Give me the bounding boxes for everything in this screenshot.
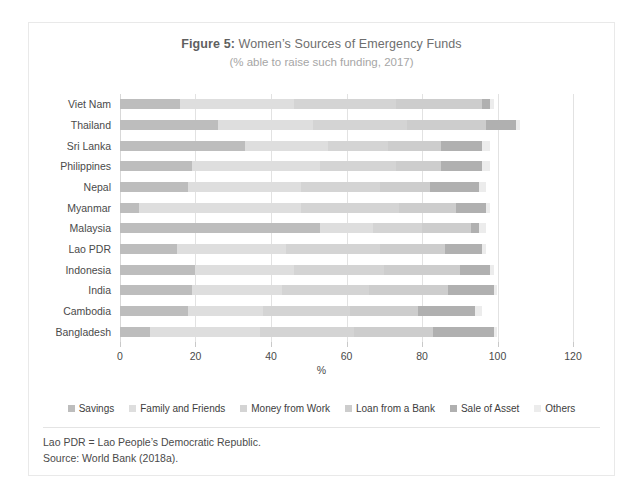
category-label-india: India: [88, 284, 111, 296]
bar-row: Sri Lanka: [120, 135, 573, 156]
legend-item-loan-from-a-bank[interactable]: Loan from a Bank: [345, 403, 435, 414]
bar-segment-sale-of-asset: [486, 120, 516, 130]
chart-title-prefix: Figure 5:: [181, 37, 235, 51]
bar-row: Nepal: [120, 177, 573, 198]
x-tick-label-80: 80: [416, 350, 428, 362]
bar-segment-others: [482, 161, 490, 171]
bar-row: India: [120, 280, 573, 301]
legend-swatch-icon: [68, 405, 75, 412]
bar-segment-loan-from-a-bank: [384, 265, 459, 275]
x-tick-60: [347, 342, 348, 347]
x-tick-label-60: 60: [341, 350, 353, 362]
legend-swatch-icon: [534, 405, 541, 412]
bar-segment-sale-of-asset: [460, 265, 490, 275]
bar-segment-sale-of-asset: [471, 223, 479, 233]
bar-segment-loan-from-a-bank: [369, 285, 448, 295]
bar-segment-others: [494, 285, 498, 295]
bar-row: Viet Nam: [120, 94, 573, 115]
bar-segment-savings: [120, 244, 177, 254]
bar-segment-loan-from-a-bank: [380, 182, 429, 192]
bar-segment-family-and-friends: [195, 265, 293, 275]
legend-swatch-icon: [345, 405, 352, 412]
stacked-bar: [120, 161, 490, 171]
bar-segment-money-from-work: [328, 141, 388, 151]
chart-title-rest: Women’s Sources of Emergency Funds: [235, 37, 462, 51]
x-tick-label-20: 20: [190, 350, 202, 362]
bar-segment-others: [475, 306, 483, 316]
bar-row: Bangladesh: [120, 321, 573, 342]
category-label-bangladesh: Bangladesh: [56, 326, 111, 338]
stacked-bar: [120, 203, 490, 213]
stacked-bar: [120, 306, 482, 316]
bar-row: Malaysia: [120, 218, 573, 239]
bar-segment-sale-of-asset: [433, 327, 493, 337]
stacked-bar: [120, 265, 494, 275]
legend-divider: [43, 427, 600, 428]
bar-segment-others: [516, 120, 520, 130]
legend-swatch-icon: [240, 405, 247, 412]
bar-segment-family-and-friends: [218, 120, 312, 130]
bar-segment-savings: [120, 327, 150, 337]
x-tick-40: [271, 342, 272, 347]
bar-segment-savings: [120, 285, 192, 295]
bar-segment-loan-from-a-bank: [396, 99, 483, 109]
figure-frame: Figure 5: Women’s Sources of Emergency F…: [28, 22, 615, 476]
bar-row: Myanmar: [120, 197, 573, 218]
x-tick-label-100: 100: [489, 350, 507, 362]
x-tick-label-0: 0: [117, 350, 123, 362]
bar-row: Cambodia: [120, 301, 573, 322]
bar-segment-savings: [120, 141, 245, 151]
bar-segment-money-from-work: [373, 223, 422, 233]
bar-segment-others: [490, 265, 494, 275]
bar-segment-others: [479, 182, 487, 192]
bar-segment-family-and-friends: [139, 203, 301, 213]
legend-item-sale-of-asset[interactable]: Sale of Asset: [450, 403, 519, 414]
category-label-thailand: Thailand: [71, 119, 111, 131]
stacked-bar: [120, 99, 494, 109]
legend-label: Loan from a Bank: [356, 403, 435, 414]
stacked-bar: [120, 223, 486, 233]
legend-item-others[interactable]: Others: [534, 403, 575, 414]
bar-segment-sale-of-asset: [430, 182, 479, 192]
bar-segment-family-and-friends: [188, 306, 263, 316]
bar-segment-sale-of-asset: [482, 99, 490, 109]
stacked-bar: [120, 182, 486, 192]
bar-segment-money-from-work: [294, 265, 385, 275]
bar-segment-sale-of-asset: [448, 285, 493, 295]
category-label-myanmar: Myanmar: [67, 202, 111, 214]
category-label-lao-pdr: Lao PDR: [68, 243, 111, 255]
legend-label: Sale of Asset: [461, 403, 519, 414]
stacked-bar: [120, 141, 490, 151]
bar-segment-others: [494, 327, 498, 337]
legend-label: Family and Friends: [140, 403, 225, 414]
footnote-definition: Lao PDR = Lao People’s Democratic Republ…: [43, 434, 570, 450]
stacked-bar: [120, 285, 498, 295]
category-label-philippines: Philippines: [60, 160, 111, 172]
bar-segment-sale-of-asset: [418, 306, 475, 316]
x-tick-80: [422, 342, 423, 347]
legend-item-savings[interactable]: Savings: [68, 403, 115, 414]
bar-segment-loan-from-a-bank: [380, 244, 444, 254]
bar-segment-others: [482, 244, 486, 254]
bar-segment-savings: [120, 99, 180, 109]
chart-legend: SavingsFamily and FriendsMoney from Work…: [29, 403, 614, 414]
legend-label: Savings: [79, 403, 115, 414]
legend-item-money-from-work[interactable]: Money from Work: [240, 403, 330, 414]
bar-segment-money-from-work: [263, 306, 350, 316]
footnote-source: Source: World Bank (2018a).: [43, 450, 570, 466]
legend-item-family-and-friends[interactable]: Family and Friends: [129, 403, 225, 414]
bar-segment-savings: [120, 182, 188, 192]
bar-segment-loan-from-a-bank: [350, 306, 418, 316]
bar-segment-money-from-work: [294, 99, 396, 109]
bar-segment-money-from-work: [301, 203, 399, 213]
category-label-nepal: Nepal: [84, 181, 111, 193]
gridline-120: [573, 94, 574, 342]
x-tick-100: [498, 342, 499, 347]
bar-segment-family-and-friends: [150, 327, 259, 337]
chart-title: Figure 5: Women’s Sources of Emergency F…: [29, 37, 614, 51]
bar-segment-loan-from-a-bank: [354, 327, 433, 337]
bar-segment-others: [482, 141, 490, 151]
x-axis: 020406080100120: [120, 342, 573, 382]
bar-segment-others: [490, 99, 494, 109]
bar-segment-savings: [120, 265, 195, 275]
